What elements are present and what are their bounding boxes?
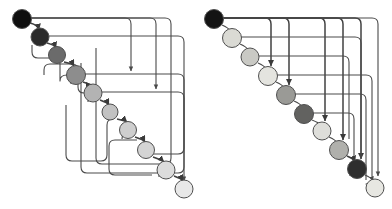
node-R3[interactable]: [241, 48, 259, 66]
node-L9[interactable]: [157, 161, 175, 179]
node-L6[interactable]: [102, 104, 118, 120]
diagram-canvas: [0, 0, 392, 209]
node-L1[interactable]: [13, 10, 32, 29]
node-L3[interactable]: [49, 47, 66, 64]
node-R6[interactable]: [295, 105, 314, 124]
node-L2[interactable]: [31, 28, 49, 46]
right-panel-edges: [222, 18, 378, 184]
node-R8[interactable]: [330, 141, 349, 160]
node-L4[interactable]: [67, 66, 86, 85]
node-L8[interactable]: [138, 142, 155, 159]
node-R5[interactable]: [277, 86, 296, 105]
edge-L4-right-rail: [85, 74, 184, 154]
edge-L2-right-rail: [49, 36, 184, 173]
node-chain-diagram: [0, 0, 392, 209]
node-R7[interactable]: [313, 122, 331, 140]
node-R2[interactable]: [223, 29, 242, 48]
edge-R1-outer-rail: [223, 18, 378, 176]
node-R9[interactable]: [348, 160, 367, 179]
node-L10[interactable]: [175, 180, 193, 198]
left-panel-nodes: [13, 10, 194, 199]
node-R1[interactable]: [205, 10, 224, 29]
left-panel-edges: [30, 18, 184, 181]
node-R4[interactable]: [259, 67, 278, 86]
node-L7[interactable]: [120, 122, 137, 139]
node-R10[interactable]: [366, 179, 384, 197]
node-L5[interactable]: [84, 84, 102, 102]
